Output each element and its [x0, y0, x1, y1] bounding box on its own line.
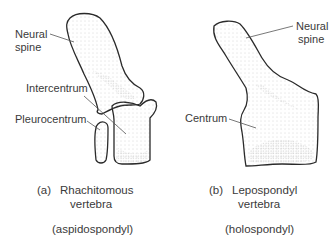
- label-neural-spine-b-line1: Neural: [296, 20, 328, 33]
- caption-b-title: Lepospondyl: [232, 183, 297, 197]
- caption-b-type: (holospondyl): [225, 222, 294, 236]
- caption-a-letter: (a): [37, 183, 51, 197]
- leader-neural-spine-b: [246, 26, 293, 38]
- caption-a-title: Rhachitomous: [60, 183, 134, 197]
- label-neural-spine-a-line1: Neural: [15, 28, 47, 41]
- rhachitomous-neural-arch: [67, 14, 144, 115]
- caption-a-type: (aspidospondyl): [52, 222, 133, 236]
- label-neural-spine-b-line2: spine: [298, 33, 324, 46]
- intercentrum-shape: [112, 100, 157, 164]
- label-centrum: Centrum: [185, 112, 227, 125]
- label-intercentrum: Intercentrum: [26, 82, 88, 95]
- vertebra-diagram: Neural spine Intercentrum Pleurocentrum …: [0, 0, 335, 248]
- label-pleurocentrum: Pleurocentrum: [15, 113, 87, 126]
- label-neural-spine-a-line2: spine: [15, 41, 41, 54]
- caption-b-subtitle: vertebra: [238, 197, 280, 211]
- caption-a-subtitle: vertebra: [70, 197, 112, 211]
- caption-b-letter: (b): [209, 183, 223, 197]
